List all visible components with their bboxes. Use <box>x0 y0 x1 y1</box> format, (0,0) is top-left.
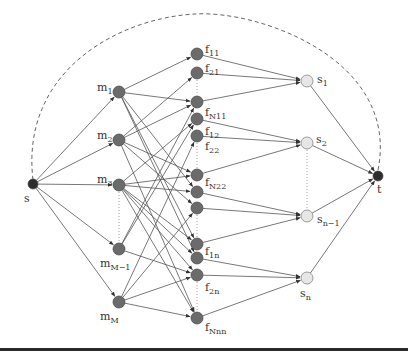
edge-fa-sn-1 <box>203 193 300 214</box>
edge-mM-f22 <box>122 142 194 296</box>
edge-m1-f1n <box>122 97 194 238</box>
flow-network-diagram <box>0 0 408 357</box>
node-label-m2: m2 <box>97 130 113 144</box>
edge-m1-fN11 <box>125 93 190 101</box>
node-m2 <box>113 134 125 146</box>
node-label-sn-1: sn−1 <box>317 214 340 228</box>
node-fN22 <box>191 169 203 181</box>
node-label-fN11: fN11 <box>205 107 226 121</box>
bottom-rule <box>0 348 408 351</box>
edge-fN11-s1 <box>203 82 300 101</box>
node-label-f21: f21 <box>205 63 219 77</box>
node-label-s2: s2 <box>316 134 327 148</box>
node-label-t: t <box>377 184 381 195</box>
node-fb <box>191 202 203 214</box>
node-fa <box>191 186 203 198</box>
node-label-mM: mM <box>100 311 119 325</box>
node-sn-1 <box>301 210 313 222</box>
node-fN11 <box>191 96 203 108</box>
edge-mM-f2n <box>125 277 191 300</box>
node-label-mM-1: mM−1 <box>100 258 130 272</box>
node-f22 <box>191 130 203 142</box>
node-f21 <box>191 67 203 79</box>
node-m3 <box>113 179 125 191</box>
edge-m2-f21 <box>124 78 192 137</box>
node-fNnn <box>191 312 203 324</box>
edge-s1-t <box>311 86 375 171</box>
node-s1 <box>301 75 313 87</box>
edge-mM-1-f12 <box>122 125 193 244</box>
edge-fb-sn-1 <box>203 208 300 215</box>
node-label-f1n: f1n <box>205 246 219 260</box>
edge-f2n-sn <box>203 275 300 278</box>
edge-m3-f2n <box>123 190 192 270</box>
node-label-f2n: f2n <box>205 282 219 296</box>
edge-m3-fa <box>125 186 190 192</box>
node-mM <box>113 296 125 308</box>
node-label-fNnn: fNnn <box>205 322 226 336</box>
node-label-s: s <box>24 193 30 204</box>
node-label-f22: f22 <box>205 141 219 155</box>
node-sn <box>301 272 313 284</box>
node-f12 <box>191 113 203 125</box>
node-s2 <box>301 137 313 149</box>
node-label-fN22: fN22 <box>205 177 226 191</box>
edge-mM-fNnn <box>125 303 190 316</box>
edge-m3-fNnn <box>122 190 194 312</box>
node-mM-1 <box>113 243 125 255</box>
node-label-s1: s1 <box>317 74 328 88</box>
edge-m1-f11 <box>124 57 190 89</box>
node-f11 <box>191 48 203 60</box>
edge-fc-sn <box>203 259 300 277</box>
node-m1 <box>113 86 125 98</box>
edge-s-mM <box>36 188 115 296</box>
node-f1n <box>191 238 203 250</box>
edge-s-mM-1 <box>37 187 113 245</box>
node-label-m3: m3 <box>97 174 113 188</box>
node-label-sn: sn <box>300 288 311 302</box>
node-fc <box>191 252 203 264</box>
node-f2n <box>191 269 203 281</box>
node-label-f12: f12 <box>205 126 219 140</box>
node-label-m1: m1 <box>97 82 113 96</box>
edge-f1n-sn-1 <box>203 218 300 243</box>
node-t <box>373 171 383 181</box>
node-label-f11: f11 <box>205 44 219 58</box>
return-arc-dashed <box>32 14 380 180</box>
node-s <box>28 179 38 189</box>
edge-s2-t <box>312 146 372 174</box>
